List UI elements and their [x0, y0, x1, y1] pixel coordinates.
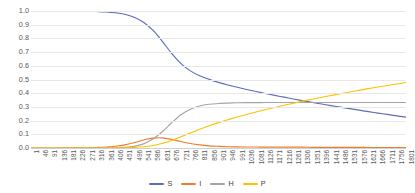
- x-axis-tick-label: 451: [127, 150, 133, 176]
- x-axis-tick-label: 1351: [315, 150, 321, 176]
- chart-container: 1.00.90.80.70.60.50.40.30.20.10.0 146911…: [0, 0, 415, 193]
- legend-item-P[interactable]: P: [243, 180, 266, 187]
- gridline: [31, 80, 406, 81]
- x-axis-tick-label: 496: [137, 150, 143, 176]
- x-axis: 1469113618122627131636140645149654158663…: [31, 150, 406, 178]
- legend-swatch-H: [210, 183, 225, 185]
- x-axis-tick-label: 1531: [352, 150, 358, 176]
- series-line-S: [31, 11, 406, 117]
- y-axis-tick-label: 0.7: [5, 48, 29, 55]
- x-axis-tick-label: 1126: [268, 150, 274, 176]
- gridline: [31, 38, 406, 39]
- legend-label-I: I: [199, 180, 201, 187]
- y-axis-tick-label: 0.3: [5, 103, 29, 110]
- y-axis-tick-label: 1.0: [5, 7, 29, 14]
- x-axis-tick-label: 316: [99, 150, 105, 176]
- y-axis-tick-label: 0.1: [5, 131, 29, 138]
- x-axis-tick-label: 1081: [259, 150, 265, 176]
- gridline: [31, 11, 406, 12]
- x-axis-tick-label: 586: [155, 150, 161, 176]
- legend-label-H: H: [228, 180, 233, 187]
- y-axis-tick-label: 0.0: [5, 144, 29, 151]
- legend-label-P: P: [261, 180, 266, 187]
- x-axis-tick-label: 901: [221, 150, 227, 176]
- x-axis-tick-label: 361: [109, 150, 115, 176]
- gridline: [31, 107, 406, 108]
- x-axis-tick-label: 1756: [399, 150, 405, 176]
- x-axis-tick-label: 721: [184, 150, 190, 176]
- x-axis-tick-label: 856: [212, 150, 218, 176]
- x-axis-tick-label: 1261: [296, 150, 302, 176]
- legend-label-S: S: [167, 180, 172, 187]
- x-axis-tick-label: 946: [230, 150, 236, 176]
- x-axis-tick-label: 181: [71, 150, 77, 176]
- y-axis-tick-label: 0.9: [5, 21, 29, 28]
- x-axis-tick-label: 811: [202, 150, 208, 176]
- x-axis-tick-label: 1576: [362, 150, 368, 176]
- y-axis: 1.00.90.80.70.60.50.40.30.20.10.0: [0, 11, 29, 148]
- series-line-H: [31, 103, 406, 148]
- x-axis-tick-label: 991: [240, 150, 246, 176]
- x-axis-tick-label: 1306: [305, 150, 311, 176]
- x-axis-tick-label: 1: [34, 150, 40, 176]
- gridline: [31, 134, 406, 135]
- x-axis-tick-label: 676: [174, 150, 180, 176]
- legend-item-S[interactable]: S: [149, 180, 172, 187]
- gridline: [31, 93, 406, 94]
- gridline: [31, 25, 406, 26]
- x-axis-tick-label: 631: [165, 150, 171, 176]
- x-axis-tick-label: 1486: [343, 150, 349, 176]
- x-axis-tick-label: 91: [52, 150, 58, 176]
- x-axis-tick-label: 541: [146, 150, 152, 176]
- plot-area: [31, 11, 406, 148]
- x-axis-tick-label: 1171: [277, 150, 283, 176]
- legend-swatch-S: [149, 183, 164, 185]
- y-axis-tick-label: 0.5: [5, 76, 29, 83]
- y-axis-tick-label: 0.2: [5, 117, 29, 124]
- y-axis-tick-label: 0.6: [5, 62, 29, 69]
- gridline: [31, 121, 406, 122]
- series-line-I: [31, 138, 406, 148]
- x-axis-tick-label: 1396: [324, 150, 330, 176]
- y-axis-tick-label: 0.4: [5, 90, 29, 97]
- legend-swatch-P: [243, 183, 258, 185]
- x-axis-tick-label: 1036: [249, 150, 255, 176]
- legend-swatch-I: [181, 183, 196, 185]
- legend-item-I[interactable]: I: [181, 180, 201, 187]
- x-axis-tick-label: 1711: [390, 150, 396, 176]
- x-axis-tick-label: 1621: [371, 150, 377, 176]
- x-axis-tick-label: 1801: [409, 150, 415, 176]
- x-axis-baseline: [31, 148, 406, 149]
- legend-item-H[interactable]: H: [210, 180, 233, 187]
- x-axis-tick-label: 1441: [334, 150, 340, 176]
- x-axis-tick-label: 1666: [380, 150, 386, 176]
- x-axis-tick-label: 271: [90, 150, 96, 176]
- x-axis-tick-label: 226: [80, 150, 86, 176]
- x-axis-tick-label: 46: [43, 150, 49, 176]
- gridline: [31, 66, 406, 67]
- gridline: [31, 52, 406, 53]
- y-axis-tick-label: 0.8: [5, 35, 29, 42]
- x-axis-tick-label: 136: [62, 150, 68, 176]
- x-axis-tick-label: 1216: [287, 150, 293, 176]
- x-axis-tick-label: 406: [118, 150, 124, 176]
- x-axis-tick-label: 766: [193, 150, 199, 176]
- chart-legend: SIHP: [0, 177, 415, 191]
